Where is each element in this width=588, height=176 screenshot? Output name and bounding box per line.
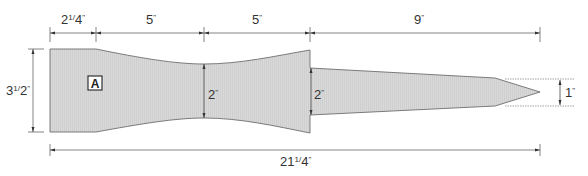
- dim-label-2-1-4: 21/4": [61, 12, 85, 27]
- dim-label-tip-1: 1": [565, 85, 575, 100]
- pattern-diagram: A 21/4" 5" 5" 9" 31/2" 2" 2" 1" 211/4": [0, 0, 588, 176]
- dim-label-5-second: 5": [252, 12, 262, 27]
- dim-label-9: 9": [414, 12, 424, 27]
- piece-label: A: [91, 77, 100, 91]
- dim-label-21-1-4: 211/4": [280, 154, 311, 169]
- dim-label-3-1-2: 31/2": [6, 83, 30, 98]
- dim-label-5-first: 5": [146, 12, 156, 27]
- pattern-piece-a: [50, 49, 540, 133]
- height-dimension-line: [28, 49, 44, 132]
- top-dimension-line: [50, 27, 540, 42]
